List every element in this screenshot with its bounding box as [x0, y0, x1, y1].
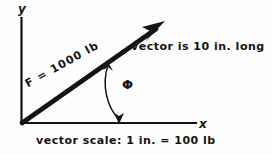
angle-arc	[105, 65, 118, 118]
vector-diagram-figure: y x F = 1000 lb Φ vector is 10 in. long …	[0, 0, 272, 155]
vector-scale-note: vector scale: 1 in. = 100 lb	[36, 134, 216, 147]
axis-label-y: y	[18, 2, 26, 16]
angle-phi-symbol: Φ	[122, 77, 133, 92]
vector-length-note: vector is 10 in. long	[131, 40, 265, 53]
axis-label-x: x	[199, 117, 207, 131]
